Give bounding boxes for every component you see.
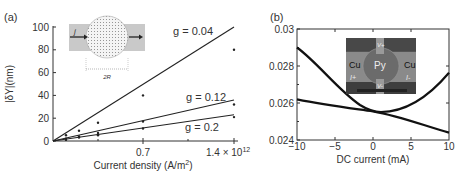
x-axis-label: Current density (A/m2) [94, 159, 193, 171]
inset-2r-label: 2R [102, 74, 111, 80]
x-tick-label: 10 [443, 141, 455, 152]
inset-disk-diagram: j 2R [69, 16, 145, 80]
y-tick-label: 0.03 [275, 24, 295, 35]
x-tick-label: 5 [408, 141, 414, 152]
panel-b: (b) 0.024 0.026 0.028 0.03 [269, 11, 455, 165]
inset-sem-image: Cu Py Cu I+ I- V+ V- [346, 38, 416, 94]
y-tick-label: 0.026 [269, 98, 294, 109]
panel-a: (a) 0 20 40 60 80 100 |δY|(nm) [4, 11, 250, 171]
y-axis-label: |δY|(nm) [4, 65, 15, 103]
label-g-0.04: g = 0.04 [173, 25, 213, 37]
inset-v-minus: V- [377, 83, 383, 89]
y-tick-label: 20 [38, 113, 50, 124]
label-g-0.2: g = 0.2 [185, 121, 219, 133]
figure: (a) 0 20 40 60 80 100 |δY|(nm) [0, 0, 473, 175]
inset-i-minus: I- [406, 74, 411, 81]
inset-py: Py [374, 60, 386, 71]
x-tick-label: 0 [370, 141, 376, 152]
disk [86, 16, 128, 58]
inset-v-plus: V+ [377, 42, 385, 48]
inset-cu-right: Cu [404, 60, 416, 70]
y-tick-label: 0 [43, 136, 49, 147]
x-tick-label: 1.4 × 1012 [206, 146, 250, 158]
x-tick-label: 0.7 [136, 147, 150, 158]
label-g-0.12: g = 0.12 [186, 91, 226, 103]
inset-i-plus: I+ [350, 74, 356, 81]
x-tick-label: −5 [329, 141, 341, 152]
panel-b-tag: (b) [270, 11, 283, 23]
x-tick-label: −10 [289, 141, 306, 152]
panel-a-tag: (a) [4, 11, 17, 23]
y-tick-label: 40 [38, 90, 50, 101]
inset-cu-left: Cu [349, 60, 361, 70]
y-tick-label: 80 [38, 44, 50, 55]
y-tick-label: 60 [38, 67, 50, 78]
inset-j-label: j [73, 27, 76, 36]
x-axis-label: DC current (mA) [337, 154, 410, 165]
curve-linear [297, 99, 449, 132]
y-tick-label: 100 [32, 22, 49, 33]
y-tick-label: 0.028 [269, 61, 294, 72]
